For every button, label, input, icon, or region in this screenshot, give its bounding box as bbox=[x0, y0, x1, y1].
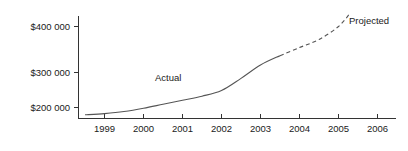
y-tick-label-400000: $400 000 bbox=[30, 21, 70, 32]
annotation-projected: Projected bbox=[349, 15, 389, 26]
x-tick-label-2006: 2006 bbox=[367, 123, 388, 134]
x-tick-label-2004: 2004 bbox=[289, 123, 310, 134]
line-chart: $400 000 $300 000 $200 000 1999 2000 200… bbox=[0, 0, 408, 151]
x-tick-label-1999: 1999 bbox=[94, 123, 115, 134]
x-tick-label-2002: 2002 bbox=[211, 123, 232, 134]
y-tick-label-200000: $200 000 bbox=[30, 102, 70, 113]
series-line-projected bbox=[280, 13, 350, 56]
y-tick-label-300000: $300 000 bbox=[30, 67, 70, 78]
series-line-actual bbox=[85, 56, 280, 115]
annotation-actual: Actual bbox=[155, 72, 181, 83]
x-tick-label-2005: 2005 bbox=[328, 123, 349, 134]
x-tick-label-2003: 2003 bbox=[250, 123, 271, 134]
chart-canvas: $400 000 $300 000 $200 000 1999 2000 200… bbox=[0, 0, 408, 151]
x-tick-label-2000: 2000 bbox=[133, 123, 154, 134]
x-tick-label-2001: 2001 bbox=[172, 123, 193, 134]
